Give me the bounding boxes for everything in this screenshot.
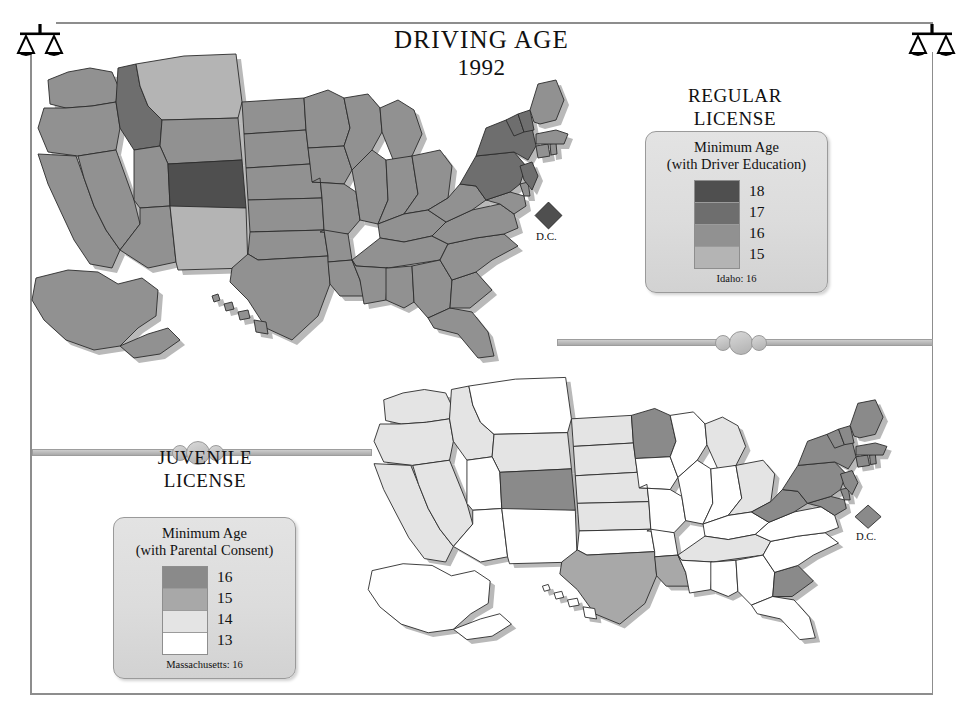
juvenile-swatch-value: 16: [217, 566, 233, 587]
state-hi: [254, 320, 268, 334]
map-juvenile-license: D.C.: [345, 355, 945, 700]
state-sd: [244, 130, 310, 168]
state-fl: [428, 308, 494, 358]
state-mt: [136, 54, 242, 120]
state-fl: [751, 597, 815, 640]
state-al: [711, 560, 738, 596]
state-wy: [160, 118, 242, 164]
state-nd: [242, 98, 306, 134]
state-mt: [469, 377, 572, 434]
state-wa: [48, 68, 118, 108]
state-ut: [467, 457, 502, 510]
regular-heading-line1: REGULAR: [640, 84, 830, 107]
regular-license-heading: REGULAR LICENSE: [640, 84, 830, 130]
regular-swatch-17: [695, 203, 739, 225]
state-or: [374, 419, 453, 466]
juvenile-subtitle-line1: Minimum Age: [114, 525, 295, 542]
juvenile-legend-scale: 16151413: [162, 566, 233, 655]
juvenile-legend-note: Massachusetts: 16: [114, 659, 295, 670]
regular-swatch-value: 17: [749, 201, 765, 222]
state-ma: [856, 443, 887, 455]
regular-heading-line2: LICENSE: [640, 107, 830, 130]
juvenile-license-heading: JUVENILE LICENSE: [110, 446, 300, 492]
state-ct: [536, 144, 550, 158]
state-ks: [577, 502, 651, 531]
regular-swatch-18: [695, 181, 739, 203]
state-al: [386, 266, 414, 308]
state-ri: [550, 143, 557, 155]
divider-dot-right: [751, 335, 767, 351]
state-wa: [384, 390, 452, 425]
state-ia: [635, 457, 678, 490]
map-poster: DRIVING AGE 1992 D.C. D.C. REGULAR LICEN…: [0, 0, 963, 718]
state-hi: [238, 310, 250, 320]
state-nd: [571, 415, 633, 446]
dc-label: D.C.: [536, 230, 557, 242]
regular-swatch-value: 16: [749, 222, 765, 243]
regular-swatch-15: [695, 247, 739, 268]
regular-swatch-16: [695, 225, 739, 247]
juvenile-heading-line1: JUVENILE: [110, 446, 300, 469]
state-ma: [536, 130, 568, 144]
state-or: [38, 102, 120, 156]
juvenile-swatch-value: 13: [217, 629, 233, 650]
dc-marker-juvenile: D.C.: [855, 505, 881, 541]
juvenile-swatch-16: [163, 567, 207, 589]
divider-ornament-right: [557, 330, 933, 354]
juvenile-swatch-15: [163, 589, 207, 611]
state-ri: [870, 454, 877, 464]
regular-legend-subtitle: Minimum Age (with Driver Education): [646, 132, 827, 173]
state-ut: [134, 146, 170, 208]
regular-swatch-labels: 18171615: [749, 180, 765, 269]
regular-legend-scale: 18171615: [694, 180, 765, 269]
juvenile-legend-subtitle: Minimum Age (with Parental Consent): [114, 518, 295, 559]
state-mn: [304, 90, 350, 148]
state-ok: [248, 230, 328, 260]
state-ar: [651, 529, 678, 557]
state-co: [500, 469, 575, 514]
juvenile-heading-line2: LICENSE: [110, 469, 300, 492]
state-ct: [856, 455, 870, 467]
dc-label: D.C.: [856, 531, 876, 541]
regular-legend-note: Idaho: 16: [646, 273, 827, 284]
juvenile-swatch-13: [163, 633, 207, 654]
state-hi: [212, 294, 220, 302]
state-nm: [502, 509, 577, 564]
state-mn: [631, 408, 676, 458]
juvenile-license-legend: Minimum Age (with Parental Consent) 1615…: [113, 517, 296, 679]
juvenile-swatch-value: 14: [217, 608, 233, 629]
juvenile-swatch-value: 15: [217, 587, 233, 608]
state-co: [168, 160, 246, 212]
state-nm: [170, 206, 248, 270]
regular-subtitle-line2: (with Driver Education): [646, 156, 827, 173]
regular-swatch-value: 15: [749, 243, 765, 264]
state-hi: [542, 584, 550, 591]
juvenile-subtitle-line2: (with Parental Consent): [114, 542, 295, 559]
state-hi: [224, 302, 234, 311]
regular-license-legend: Minimum Age (with Driver Education) 1817…: [645, 131, 828, 293]
frame-top-border: [56, 22, 933, 24]
state-ks: [248, 198, 324, 232]
juvenile-swatch-column: [162, 566, 208, 655]
regular-swatch-column: [694, 180, 740, 269]
state-ok: [577, 529, 654, 555]
regular-subtitle-line1: Minimum Age: [646, 139, 827, 156]
dc-marker-regular: D.C.: [535, 202, 562, 242]
state-hi: [554, 591, 564, 599]
state-hi: [583, 607, 597, 619]
regular-swatch-value: 18: [749, 180, 765, 201]
juvenile-swatch-labels: 16151413: [217, 566, 233, 655]
state-sd: [573, 443, 637, 476]
state-ar: [324, 230, 352, 262]
state-wy: [492, 433, 571, 473]
state-ia: [308, 146, 352, 184]
juvenile-swatch-14: [163, 611, 207, 633]
state-hi: [568, 598, 580, 607]
divider-dot-center: [729, 331, 753, 355]
